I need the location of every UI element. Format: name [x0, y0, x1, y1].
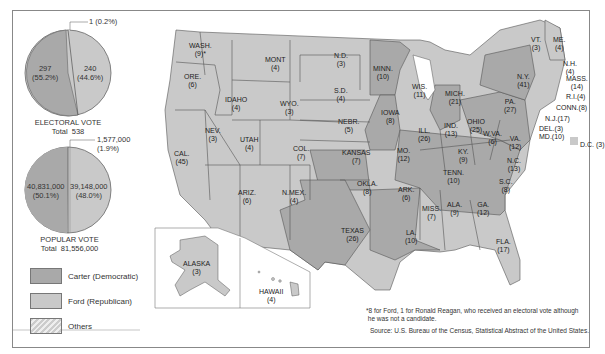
- state-ill: ILL. (26): [418, 127, 430, 143]
- state-wva: W.VA. (6): [483, 130, 502, 146]
- electoral-title: ELECTORAL VOTETotal 538: [27, 118, 109, 136]
- state-texas: TEXAS (26): [341, 227, 364, 243]
- source-note: Source: U.S. Bureau of the Census, Stati…: [370, 327, 589, 335]
- state-col: COL. (7): [293, 145, 309, 161]
- others-swatch: [30, 318, 62, 334]
- legend-label: Ford (Republican): [68, 297, 132, 306]
- state-fla: FLA. (17): [496, 238, 511, 254]
- state-okla: OKLA. (8): [357, 180, 378, 196]
- state-ny: N.Y. (41): [517, 73, 530, 89]
- state-nj: N.J.(17): [545, 115, 570, 123]
- state-va: VA. (12): [509, 135, 521, 151]
- state-wis: WIS. (11): [412, 83, 427, 99]
- state-dc: D.C. (3): [580, 141, 605, 149]
- state-ore: ORE. (6): [184, 73, 201, 89]
- carter-swatch: [30, 268, 62, 284]
- state-wyo: WYO. (3): [280, 100, 299, 116]
- state-ariz: ARIZ. (6): [238, 189, 256, 205]
- state-miss: MISS. (7): [422, 205, 441, 221]
- popular-others-label: 1,577,000(1.9%): [97, 135, 130, 153]
- state-mont: MONT (4): [265, 56, 286, 72]
- electoral-ford-value: 240(44.6%): [77, 64, 103, 82]
- state-ind: IND. (13): [444, 122, 458, 138]
- state-ga: GA. (12): [477, 201, 489, 217]
- state-utah: UTAH (4): [240, 136, 259, 152]
- legend-label: Carter (Democratic): [68, 272, 138, 281]
- state-ala: ALA. (9): [447, 201, 462, 217]
- state-nc: N.C. (13): [507, 157, 521, 173]
- state-ri: R.I.(4): [566, 93, 585, 101]
- popular-carter-value: 40,831,000(50.1%): [27, 182, 65, 200]
- state-mass: MASS. (14): [566, 75, 588, 91]
- state-cal: CAL. (45): [174, 150, 190, 166]
- state-hawaii: HAWAII (4): [259, 288, 283, 304]
- legend-label: Others: [68, 322, 92, 331]
- state-tenn: TENN. (10): [443, 169, 464, 185]
- electoral-others-label: 1 (0.2%): [89, 17, 117, 26]
- state-conn: CONN.(8): [556, 104, 587, 112]
- state-nd: N.D. (3): [334, 52, 348, 68]
- state-sd: S.D. (4): [334, 87, 348, 103]
- state-pa: PA. (27): [504, 98, 516, 114]
- state-nh: N.H. (4): [563, 60, 577, 76]
- state-me: ME. (4): [553, 36, 565, 52]
- popular-ford-value: 39,148,000(48.0%): [70, 182, 108, 200]
- state-wash: WASH. (9)*: [189, 42, 212, 58]
- state-ky: KY. (9): [458, 148, 468, 164]
- state-iowa: IOWA (8): [381, 109, 399, 125]
- state-minn: MINN. (10): [373, 65, 393, 81]
- state-la: LA. (10): [405, 229, 417, 245]
- electoral-carter-value: 297(55.2%): [32, 64, 58, 82]
- state-nebr: NEBR. (5): [338, 118, 359, 134]
- footnote: *8 for Ford, 1 for Ronald Reagan, who re…: [366, 307, 578, 323]
- state-del: DEL.(3): [539, 125, 563, 133]
- state-kansas: KANSAS (7): [342, 149, 370, 165]
- ford-swatch: [30, 293, 62, 309]
- legend-carter: Carter (Democratic): [30, 268, 138, 284]
- state-sc: S.C. (8): [499, 178, 513, 194]
- state-md: MD.(10): [539, 133, 564, 141]
- state-nev: NEV. (3): [205, 127, 221, 143]
- legend-others: Others: [30, 318, 92, 334]
- state-idaho: IDAHO (4): [225, 96, 247, 112]
- legend-ford: Ford (Republican): [30, 293, 132, 309]
- state-mich: MICH. (21): [445, 90, 465, 106]
- state-vt: VT. (3): [531, 36, 541, 52]
- state-mo: MO. (12): [397, 147, 410, 163]
- state-alaska: ALASKA (3): [183, 260, 210, 276]
- state-ark: ARK. (6): [398, 186, 414, 202]
- popular-title: POPULAR VOTETotal 81,556,000: [27, 235, 112, 253]
- state-nmex: N.MEX. (4): [282, 189, 306, 205]
